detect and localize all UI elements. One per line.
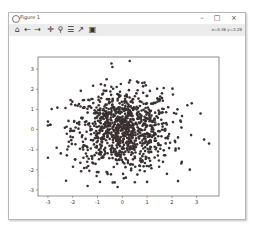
svg-text:-1: -1 (29, 146, 34, 152)
svg-text:-1: -1 (95, 199, 100, 205)
svg-text:-3: -3 (45, 199, 50, 205)
svg-text:2: 2 (170, 199, 173, 205)
svg-text:1: 1 (146, 199, 149, 205)
svg-text:-2: -2 (70, 199, 75, 205)
svg-text:2: 2 (31, 86, 34, 92)
svg-text:-3: -3 (29, 187, 34, 193)
svg-text:-2: -2 (29, 167, 34, 173)
svg-text:1: 1 (31, 106, 34, 112)
svg-text:3: 3 (31, 66, 34, 72)
svg-text:0: 0 (31, 126, 34, 132)
scatter-plot[interactable]: -3-2-101233210-1-2-3 (0, 0, 253, 227)
svg-text:0: 0 (121, 199, 124, 205)
svg-text:3: 3 (195, 199, 198, 205)
